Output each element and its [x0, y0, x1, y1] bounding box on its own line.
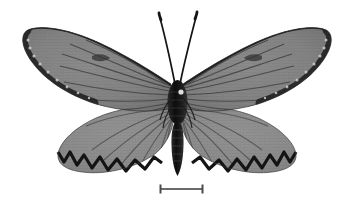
specimen-plate: Grayscale dorsal photograph of a pinned …: [0, 0, 354, 208]
thorax-highlight-spot: [178, 89, 183, 94]
butterfly-specimen-image: [0, 0, 354, 208]
